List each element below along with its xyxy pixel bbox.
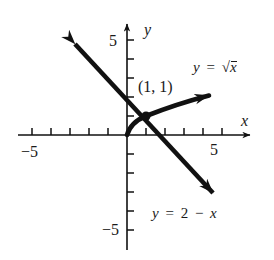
x-tick-label-5: 5 xyxy=(210,142,218,158)
intersection-point-marker xyxy=(141,111,150,120)
line-equation-label: y = 2 − x xyxy=(152,206,217,221)
line-label-minus: − xyxy=(188,205,210,221)
graph-figure: y x 5 −5 −5 5 (1, 1) y = √x y = 2 − x xyxy=(0,0,274,260)
line-label-y: y xyxy=(152,205,159,221)
radical-overbar xyxy=(231,61,237,62)
y-axis-label: y xyxy=(144,22,151,38)
sqrt-curve-label: y = √x xyxy=(193,60,237,75)
x-axis-label: x xyxy=(241,113,248,129)
y-tick-label-negative-5: −5 xyxy=(102,222,119,238)
sqrt-label-equals: = xyxy=(200,59,222,75)
coordinate-plane-svg xyxy=(0,0,274,260)
x-tick-label-negative-5: −5 xyxy=(21,144,38,160)
line-label-rhs-x: x xyxy=(210,205,217,221)
sqrt-label-y: y xyxy=(193,59,200,75)
y-tick-label-5: 5 xyxy=(109,33,117,49)
radical-sign-icon: √ xyxy=(222,59,230,75)
sqrt-label-radical-group: √x xyxy=(222,60,237,75)
line-label-equals: = xyxy=(159,205,181,221)
intersection-point-label: (1, 1) xyxy=(138,79,173,95)
